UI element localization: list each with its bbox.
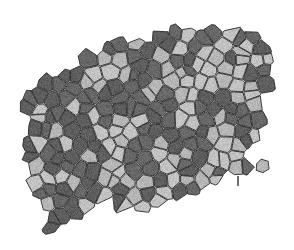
mosaic-figure: Two-phase polycrystalline grain mosaic I… xyxy=(0,0,294,250)
grain-mosaic-canvas xyxy=(0,0,294,250)
